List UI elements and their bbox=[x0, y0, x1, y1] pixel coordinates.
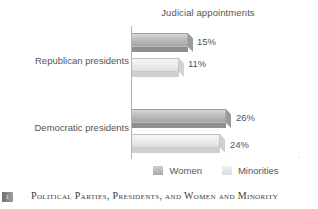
caption-badge: 1 bbox=[2, 192, 13, 202]
legend-label-women: Women bbox=[169, 165, 202, 176]
bar-shelf bbox=[132, 148, 220, 153]
value-label-republican-women: 15% bbox=[197, 36, 216, 47]
bar-republican-minorities bbox=[132, 58, 184, 77]
legend-item-minorities: Minorities bbox=[222, 165, 279, 176]
bar-face bbox=[132, 134, 220, 148]
bar-republican-women bbox=[132, 33, 193, 52]
value-label-democratic-minorities: 24% bbox=[230, 139, 249, 150]
value-label-democratic-women: 26% bbox=[236, 112, 255, 123]
legend-item-women: Women bbox=[153, 165, 202, 176]
bar-face bbox=[132, 33, 188, 47]
category-label-republican-presidents: Republican presidents bbox=[35, 55, 129, 66]
legend-swatch-minorities-icon bbox=[222, 166, 232, 175]
bar-cap bbox=[226, 109, 231, 128]
bar-cap bbox=[188, 33, 193, 52]
bar-face bbox=[132, 58, 179, 72]
bar-face bbox=[132, 109, 226, 123]
bar-democratic-women bbox=[132, 109, 231, 128]
figure-caption: 1 Political Parties, Presidents, and Wom… bbox=[0, 186, 318, 209]
value-label-republican-minorities: 11% bbox=[188, 58, 206, 69]
caption-text: Political Parties, Presidents, and Women… bbox=[31, 190, 316, 201]
bar-shelf bbox=[132, 72, 179, 77]
bar-cap bbox=[220, 134, 225, 153]
chart-title: Judicial appointments bbox=[128, 7, 288, 18]
bar-shelf bbox=[132, 123, 226, 128]
legend-label-minorities: Minorities bbox=[238, 165, 279, 176]
category-label-democratic-presidents: Democratic presidents bbox=[34, 122, 129, 133]
legend-swatch-women-icon bbox=[153, 166, 163, 175]
bar-shelf bbox=[132, 47, 188, 52]
page-speck bbox=[298, 156, 300, 158]
figure-chart: Judicial appointments Republican preside… bbox=[0, 0, 318, 185]
chart-legend: Women Minorities bbox=[131, 165, 301, 176]
bar-cap bbox=[179, 58, 184, 77]
bar-democratic-minorities bbox=[132, 134, 225, 153]
